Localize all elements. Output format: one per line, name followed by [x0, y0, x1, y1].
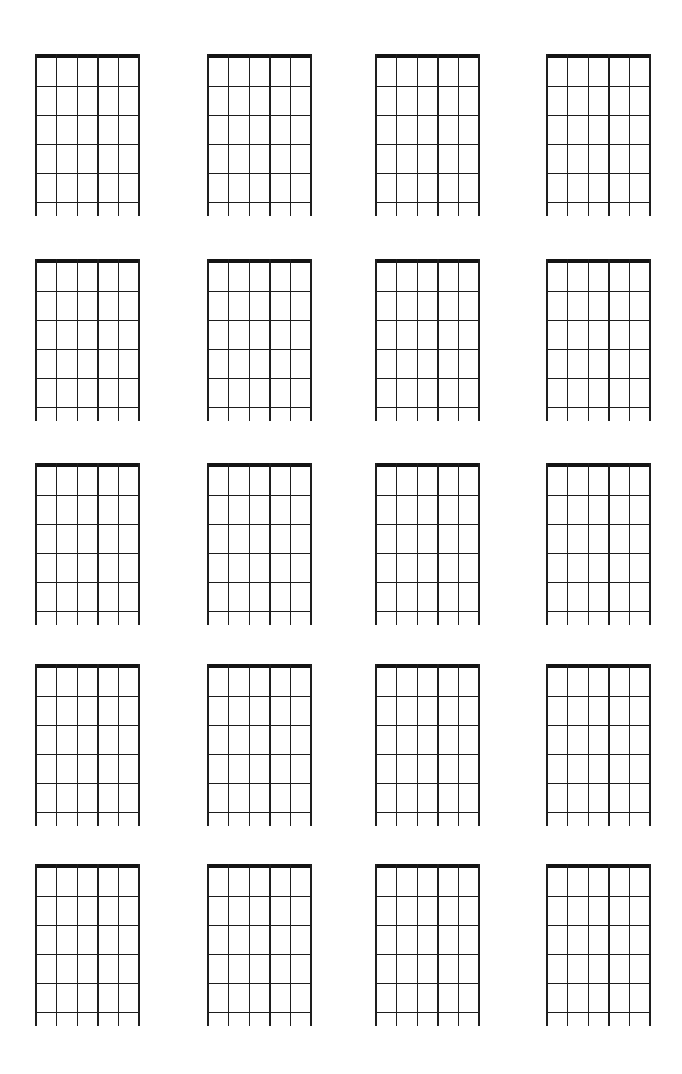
nut	[208, 259, 312, 263]
chord-diagram	[375, 259, 481, 421]
chord-diagram-grid	[546, 259, 652, 421]
chord-diagram-grid	[375, 259, 481, 421]
chord-diagram	[546, 664, 652, 826]
nut	[547, 463, 651, 467]
chord-diagram	[207, 864, 313, 1026]
chord-diagram	[207, 54, 313, 216]
chord-diagram-grid	[546, 864, 652, 1026]
chord-diagram-grid	[375, 864, 481, 1026]
nut	[36, 463, 140, 467]
chord-diagram-grid	[207, 259, 313, 421]
chord-diagram	[375, 463, 481, 625]
chord-diagram	[546, 259, 652, 421]
chord-diagram	[375, 54, 481, 216]
chord-diagram	[207, 259, 313, 421]
nut	[208, 664, 312, 668]
nut	[376, 463, 480, 467]
chord-diagram	[375, 664, 481, 826]
nut	[36, 864, 140, 868]
chord-diagram-grid	[35, 864, 141, 1026]
chord-diagram-sheet	[0, 0, 682, 1074]
chord-diagram	[546, 54, 652, 216]
nut	[208, 864, 312, 868]
nut	[36, 54, 140, 58]
chord-diagram	[207, 664, 313, 826]
chord-diagram	[35, 54, 141, 216]
chord-diagram-grid	[35, 54, 141, 216]
nut	[208, 54, 312, 58]
chord-diagram-grid	[207, 664, 313, 826]
nut	[376, 864, 480, 868]
chord-diagram	[375, 864, 481, 1026]
chord-diagram-grid	[207, 54, 313, 216]
nut	[376, 54, 480, 58]
chord-diagram-grid	[207, 463, 313, 625]
chord-diagram-grid	[375, 54, 481, 216]
nut	[547, 54, 651, 58]
nut	[547, 664, 651, 668]
chord-diagram	[35, 259, 141, 421]
chord-diagram	[207, 463, 313, 625]
chord-diagram	[35, 864, 141, 1026]
chord-diagram-grid	[375, 463, 481, 625]
chord-diagram	[546, 463, 652, 625]
chord-diagram-grid	[375, 664, 481, 826]
nut	[36, 664, 140, 668]
chord-diagram-grid	[546, 54, 652, 216]
nut	[376, 664, 480, 668]
nut	[376, 259, 480, 263]
chord-diagram-grid	[546, 463, 652, 625]
chord-diagram-grid	[35, 664, 141, 826]
nut	[547, 864, 651, 868]
chord-diagram	[35, 664, 141, 826]
chord-diagram-grid	[35, 463, 141, 625]
nut	[547, 259, 651, 263]
chord-diagram-grid	[35, 259, 141, 421]
chord-diagram-grid	[546, 664, 652, 826]
chord-diagram-grid	[207, 864, 313, 1026]
chord-diagram	[35, 463, 141, 625]
nut	[36, 259, 140, 263]
chord-diagram	[546, 864, 652, 1026]
nut	[208, 463, 312, 467]
